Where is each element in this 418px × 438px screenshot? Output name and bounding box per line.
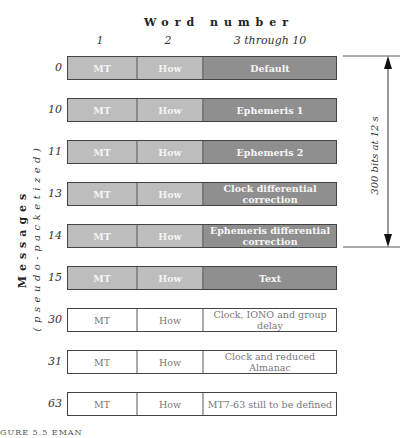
word-2-cell: How bbox=[136, 99, 202, 121]
message-row: MTHowText bbox=[67, 266, 337, 290]
word-2-cell: How bbox=[136, 309, 202, 331]
word-1-cell: MT bbox=[68, 309, 136, 331]
column-header-word-1: 1 bbox=[80, 34, 120, 47]
message-number: 0 bbox=[32, 61, 62, 74]
message-row: MTHowEphemeris 2 bbox=[67, 140, 337, 164]
word-1-cell: MT bbox=[68, 141, 136, 163]
message-row: MTHowEphemeris differential correction bbox=[67, 224, 337, 248]
message-number: 30 bbox=[32, 313, 62, 326]
content-cell: Text bbox=[202, 267, 336, 289]
content-cell: Clock, IONO and group delay bbox=[202, 309, 336, 331]
word-2-cell: How bbox=[136, 267, 202, 289]
message-row: MTHowDefault bbox=[67, 56, 337, 80]
message-number: 15 bbox=[32, 271, 62, 284]
message-number: 63 bbox=[32, 397, 62, 410]
message-number: 13 bbox=[32, 187, 62, 200]
content-cell: MT7-63 still to be defined bbox=[202, 393, 336, 415]
word-2-cell: How bbox=[136, 393, 202, 415]
message-row: MTHowClock differential correction bbox=[67, 182, 337, 206]
message-number: 14 bbox=[32, 229, 62, 242]
message-number: 10 bbox=[32, 103, 62, 116]
message-row: MTHowClock, IONO and group delay bbox=[67, 308, 337, 332]
word-1-cell: MT bbox=[68, 57, 136, 79]
message-row: MTHowMT7-63 still to be defined bbox=[67, 392, 337, 416]
message-number: 11 bbox=[32, 145, 62, 158]
word-1-cell: MT bbox=[68, 99, 136, 121]
word-1-cell: MT bbox=[68, 267, 136, 289]
word-2-cell: How bbox=[136, 57, 202, 79]
content-cell: Ephemeris 2 bbox=[202, 141, 336, 163]
message-row: MTHowEphemeris 1 bbox=[67, 98, 337, 122]
word-2-cell: How bbox=[136, 141, 202, 163]
message-row: MTHowClock and reduced Almanac bbox=[67, 350, 337, 374]
figure-caption: GURE 5.5 EMAN bbox=[0, 428, 83, 437]
word-1-cell: MT bbox=[68, 225, 136, 247]
content-cell: Ephemeris 1 bbox=[202, 99, 336, 121]
y-axis-label: Messages bbox=[16, 139, 29, 339]
column-header-words-3-10: 3 through 10 bbox=[220, 34, 320, 47]
content-cell: Default bbox=[202, 57, 336, 79]
span-annotation: 300 bits at 12 s bbox=[369, 106, 380, 206]
column-header-word-2: 2 bbox=[148, 34, 188, 47]
word-1-cell: MT bbox=[68, 183, 136, 205]
word-2-cell: How bbox=[136, 225, 202, 247]
word-1-cell: MT bbox=[68, 351, 136, 373]
word-2-cell: How bbox=[136, 183, 202, 205]
content-cell: Clock differential correction bbox=[202, 183, 336, 205]
message-number: 31 bbox=[32, 355, 62, 368]
word-2-cell: How bbox=[136, 351, 202, 373]
content-cell: Ephemeris differential correction bbox=[202, 225, 336, 247]
diagram-title: Word number bbox=[0, 16, 418, 29]
content-cell: Clock and reduced Almanac bbox=[202, 351, 336, 373]
word-1-cell: MT bbox=[68, 393, 136, 415]
